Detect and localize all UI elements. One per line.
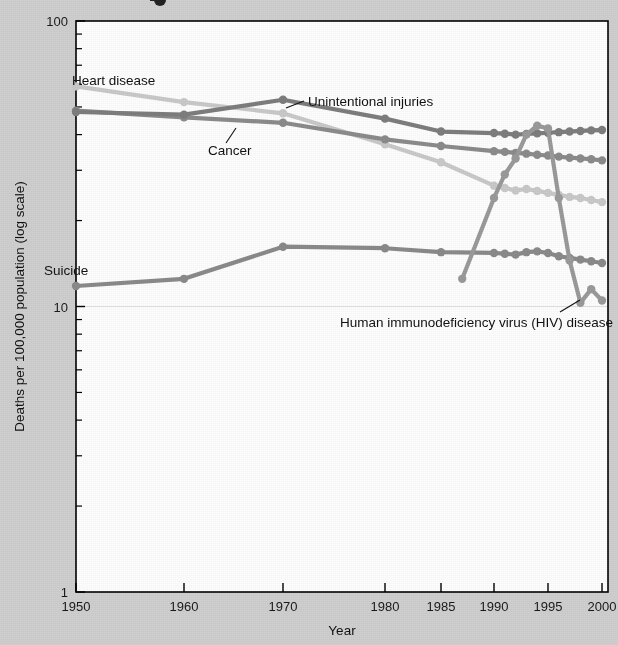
data-point	[576, 154, 584, 162]
y-tick-label: 100	[46, 14, 68, 29]
annotation-label-suicide: Suicide	[44, 263, 88, 278]
data-point	[544, 124, 552, 132]
data-point	[587, 257, 595, 265]
data-point	[576, 255, 584, 263]
annotation-label-cancer: Cancer	[208, 143, 252, 158]
data-point	[555, 152, 563, 160]
data-point	[490, 147, 498, 155]
data-point	[598, 296, 606, 304]
x-tick-label: 1995	[534, 599, 563, 614]
data-point	[522, 248, 530, 256]
data-point	[501, 148, 509, 156]
data-point	[544, 249, 552, 257]
y-tick-label: 10	[54, 300, 68, 315]
data-point	[533, 247, 541, 255]
data-point	[458, 275, 466, 283]
data-point	[437, 127, 445, 135]
data-point	[522, 185, 530, 193]
data-point	[511, 154, 519, 162]
data-point	[522, 149, 530, 157]
data-point	[565, 154, 573, 162]
deaths-rate-line-chart: 100101 19501960197019801985199019952000 …	[0, 0, 618, 645]
data-point	[598, 198, 606, 206]
data-point	[501, 129, 509, 137]
data-point	[437, 158, 445, 166]
data-point	[598, 156, 606, 164]
x-tick-label: 1985	[427, 599, 456, 614]
annotation-label-unintentional-injuries: Unintentional injuries	[308, 94, 434, 109]
data-point	[279, 109, 287, 117]
data-point	[587, 155, 595, 163]
data-point	[565, 127, 573, 135]
data-point	[533, 151, 541, 159]
data-point	[279, 119, 287, 127]
x-tick-label: 1960	[170, 599, 199, 614]
data-point	[511, 186, 519, 194]
data-point	[501, 170, 509, 178]
data-point	[598, 126, 606, 134]
x-tick-label: 1970	[269, 599, 298, 614]
data-point	[576, 299, 584, 307]
data-point	[180, 275, 188, 283]
data-point	[279, 242, 287, 250]
data-point	[511, 130, 519, 138]
data-point	[587, 196, 595, 204]
data-point	[555, 194, 563, 202]
data-point	[522, 130, 530, 138]
figure-container: 100101 19501960197019801985199019952000 …	[0, 0, 618, 645]
data-point	[437, 142, 445, 150]
data-point	[555, 128, 563, 136]
y-tick-label: 1	[61, 585, 68, 600]
data-point	[180, 110, 188, 118]
data-point	[180, 98, 188, 106]
x-tick-label: 2000	[588, 599, 617, 614]
annotation-label-hiv-disease: Human immunodeficiency virus (HIV) disea…	[340, 315, 613, 330]
data-point	[565, 193, 573, 201]
data-point	[490, 129, 498, 137]
x-tick-label: 1950	[62, 599, 91, 614]
x-tick-label: 1980	[371, 599, 400, 614]
data-point	[72, 282, 80, 290]
data-point	[533, 121, 541, 129]
data-point	[555, 252, 563, 260]
data-point	[533, 187, 541, 195]
data-point	[381, 114, 389, 122]
y-axis-title: Deaths per 100,000 population (log scale…	[12, 181, 27, 432]
data-point	[279, 96, 287, 104]
data-point	[381, 244, 389, 252]
data-point	[490, 194, 498, 202]
data-point	[501, 250, 509, 258]
data-point	[587, 285, 595, 293]
data-point	[587, 126, 595, 134]
data-point	[565, 256, 573, 264]
annotation-label-heart-disease: Heart disease	[72, 73, 155, 88]
data-point	[576, 194, 584, 202]
data-point	[598, 259, 606, 267]
x-tick-label: 1990	[480, 599, 509, 614]
x-axis-title: Year	[328, 623, 356, 638]
data-point	[437, 248, 445, 256]
data-point	[381, 135, 389, 143]
data-point	[576, 127, 584, 135]
data-point	[490, 249, 498, 257]
data-point	[544, 189, 552, 197]
data-point	[511, 250, 519, 258]
data-point	[72, 108, 80, 116]
